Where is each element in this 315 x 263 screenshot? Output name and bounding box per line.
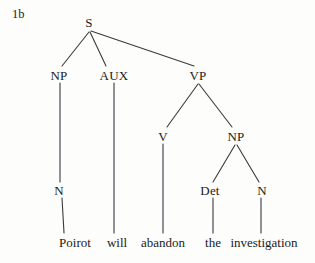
leaf-word-investigation: investigation [230, 236, 297, 249]
node-aux: AUX [100, 69, 129, 82]
edge-s-vp [91, 31, 194, 66]
edge-s-aux [90, 32, 106, 66]
leaf-word-poirot: Poirot [59, 236, 91, 249]
node-n-subject: N [54, 184, 64, 197]
edge-n-poirot [62, 198, 64, 233]
leaf-word-abandon: abandon [141, 236, 185, 249]
node-np-subject: NP [50, 69, 67, 82]
edge-vp-v [167, 84, 198, 127]
node-v: V [158, 130, 168, 143]
node-vp: VP [189, 69, 206, 82]
edge-np-n-object [237, 145, 259, 182]
node-s: S [85, 16, 92, 29]
edge-vp-np-object [199, 84, 232, 127]
syntax-tree-figure: 1b S NP AUX VP N V NP Det N Poirot will … [0, 0, 315, 263]
example-number-label: 1b [12, 8, 25, 21]
node-det: Det [200, 184, 219, 197]
edge-s-np [62, 32, 89, 66]
leaf-word-will: will [107, 236, 127, 249]
node-np-object: NP [227, 130, 244, 143]
edge-np-det [213, 145, 235, 182]
leaf-word-the: the [205, 236, 221, 249]
node-n-object: N [257, 184, 267, 197]
